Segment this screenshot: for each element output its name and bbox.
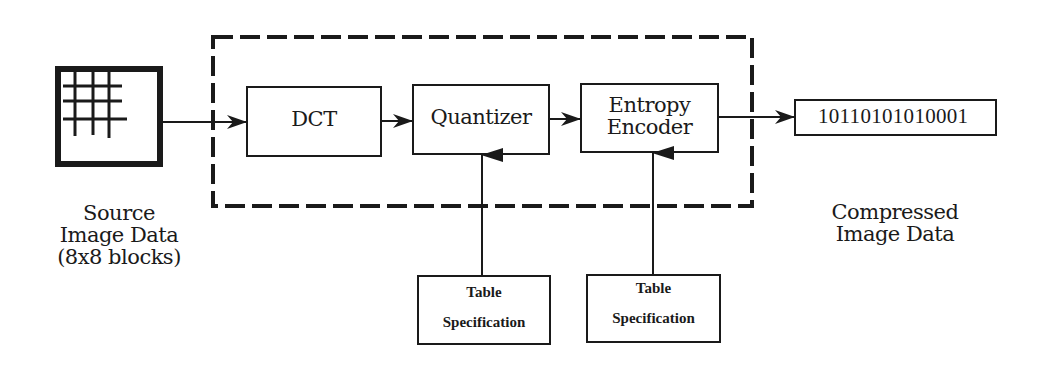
source-label-line-3: (8x8 blocks) (44, 246, 194, 268)
compressed-output-label: Compressed Image Data (820, 201, 970, 245)
dct-block-label: DCT (247, 108, 381, 130)
compressed-label-line-1: Compressed (820, 201, 970, 223)
quantizer-label-text: Quantizer (413, 106, 549, 128)
jpeg-encoder-diagram: Source Image Data (8x8 blocks) DCT Quant… (0, 0, 1037, 366)
entropy-label-line-1: Entropy (581, 94, 718, 116)
quantizer-block-label: Quantizer (413, 106, 549, 128)
source-label-line-2: Image Data (44, 224, 194, 246)
source-label: Source Image Data (8x8 blocks) (44, 202, 194, 268)
table-spec-2-line-2: Specification (587, 311, 720, 327)
table-spec-1-line-2: Specification (418, 315, 550, 331)
grid-image-icon (58, 69, 160, 164)
entropy-encoder-block-label: Entropy Encoder (581, 94, 718, 138)
entropy-label-line-2: Encoder (581, 116, 718, 138)
table-spec-2-label: Table Specification (587, 281, 720, 327)
table-spec-1-line-1: Table (418, 285, 550, 301)
table-spec-2-line-1: Table (587, 281, 720, 297)
compressed-label-line-2: Image Data (820, 223, 970, 245)
dct-label-text: DCT (247, 108, 381, 130)
table-spec-1-label: Table Specification (418, 285, 550, 331)
source-label-line-1: Source (44, 202, 194, 224)
output-bitstream-text: 10110101010001 (818, 105, 998, 127)
